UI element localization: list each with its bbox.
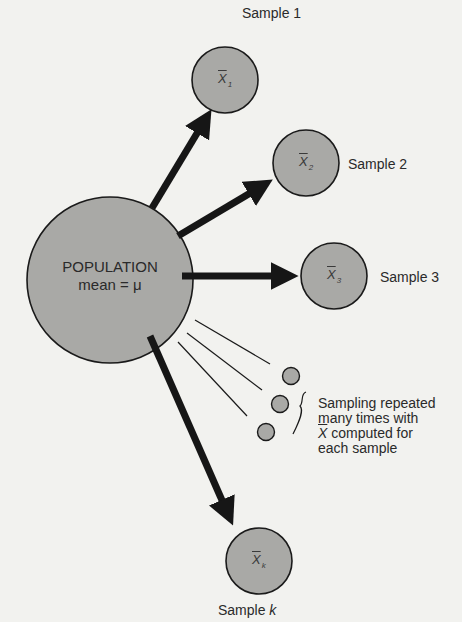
small-sample-circle-1 — [283, 368, 300, 385]
sample-k-label: Sample k — [218, 603, 276, 617]
sample-1-label: Sample 1 — [242, 6, 301, 20]
sample-2-mean: X2 — [299, 155, 313, 172]
small-sample-circle-3 — [258, 424, 275, 441]
sample-3-label: Sample 3 — [380, 270, 439, 284]
arrow-to-sample-1 — [152, 120, 205, 208]
arrow-to-sample-k — [150, 336, 228, 514]
sample-k-mean: Xk — [252, 553, 266, 570]
small-sample-circle-2 — [272, 396, 289, 413]
repeat-line-2 — [187, 333, 262, 390]
population-label: POPULATION mean = μ — [50, 258, 170, 294]
population-title: POPULATION — [50, 258, 170, 276]
sample-2-label: Sample 2 — [348, 157, 407, 171]
sampling-diagram — [0, 0, 462, 622]
brace — [293, 392, 306, 434]
sample-3-mean: X3 — [327, 268, 341, 285]
arrow-to-sample-2 — [178, 186, 262, 236]
repeated-sampling-note: Sampling repeated many times with X comp… — [318, 396, 436, 456]
repeat-line-1 — [195, 320, 270, 364]
sample-1-mean: X1 — [218, 72, 232, 89]
population-mean: mean = μ — [50, 276, 170, 294]
